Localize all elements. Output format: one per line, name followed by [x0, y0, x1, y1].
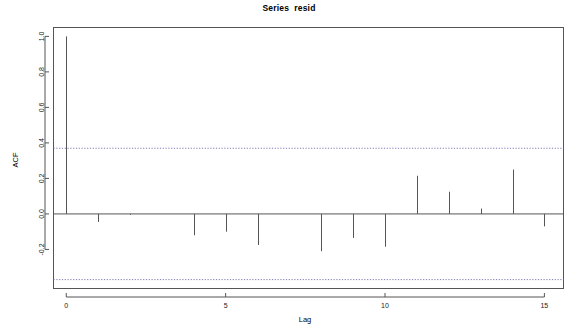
acf-plot-canvas: -0.20.00.20.40.60.81.0 051015 ACF Lag [0, 0, 578, 332]
plot-frame [54, 28, 564, 289]
x-axis-tick-label: 15 [540, 302, 548, 309]
y-axis-tick-label: 0.2 [38, 173, 45, 183]
acf-stems [67, 36, 545, 251]
y-axis-tick-label: 1.0 [38, 31, 45, 41]
y-axis-tick-label: 0.0 [38, 209, 45, 219]
x-axis-tick-label: 5 [224, 302, 228, 309]
x-axis: 051015 [64, 293, 548, 309]
x-axis-title: Lag [299, 315, 312, 324]
x-axis-tick-label: 10 [381, 302, 389, 309]
y-axis-title: ACF [11, 152, 20, 167]
y-axis-tick-label: 0.8 [38, 67, 45, 77]
y-axis-tick-label: 0.6 [38, 102, 45, 112]
y-axis: -0.20.00.20.40.60.81.0 [38, 31, 49, 255]
x-axis-tick-label: 0 [64, 302, 68, 309]
y-axis-tick-label: -0.2 [38, 243, 45, 255]
acf-plot-figure: Series resid -0.20.00.20.40.60.81.0 0510… [0, 0, 578, 332]
y-axis-tick-label: 0.4 [38, 138, 45, 148]
